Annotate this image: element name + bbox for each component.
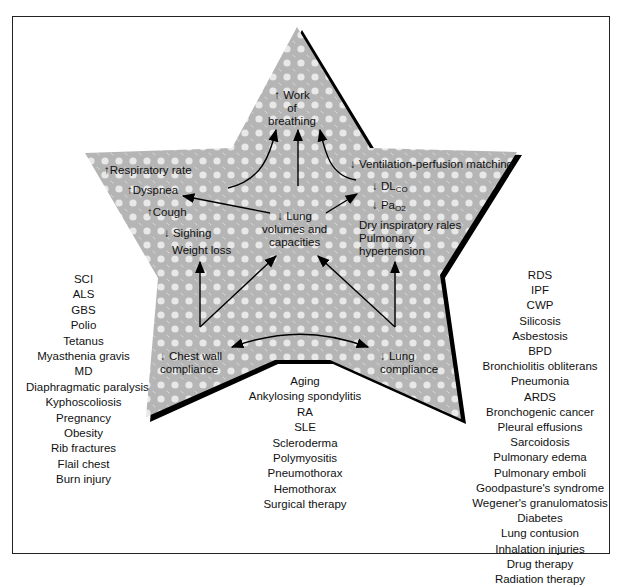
list-item: Scleroderma [230, 436, 380, 451]
list-item: Pleural effusions [470, 420, 610, 435]
effect-weight-loss: Weight loss [172, 244, 231, 257]
list-item: Pneumonia [470, 374, 610, 389]
lung-compliance-label: ↓ Lung compliance [380, 350, 438, 376]
chest-wall-compliance-label: ↓ Chest wall compliance [160, 350, 222, 376]
list-item: Radiation therapy [470, 572, 610, 587]
effect-sighing: ↓ Sighing [164, 227, 211, 240]
effect-respiratory-rate: ↑Respiratory rate [104, 164, 192, 177]
list-item: BPD [470, 344, 610, 359]
list-item: Diaphragmatic paralysis [26, 380, 141, 395]
list-item: Bronchiolitis obliterans [470, 359, 610, 374]
list-item: Bronchogenic cancer [470, 405, 610, 420]
effect-dyspnea: ↑Dyspnea [127, 184, 178, 197]
list-item: Asbestosis [470, 329, 610, 344]
chest-wall-causes-list: Aging Ankylosing spondylitis RA SLE Scle… [230, 374, 380, 513]
list-item: Inhalation injuries [470, 542, 610, 557]
lung-parenchymal-causes-list: RDS IPF CWP Silicosis Asbestosis BPD Bro… [470, 268, 610, 587]
effect-pulmonary: Pulmonary [359, 232, 414, 245]
list-item: Sarcoidosis [470, 435, 610, 450]
work-of-breathing-label: ↑ Work of breathing [268, 89, 316, 128]
list-item: SCI [26, 272, 141, 287]
list-item: Flail chest [26, 457, 141, 472]
list-item: Pulmonary edema [470, 450, 610, 465]
list-item: Polio [26, 318, 141, 333]
list-item: Goodpasture's syndrome [470, 481, 610, 496]
list-item: MD [26, 364, 141, 379]
list-item: Hemothorax [230, 482, 380, 497]
list-item: Diabetes [470, 511, 610, 526]
effect-vq-matching: ↓ Ventilation-perfusion matching [350, 158, 513, 171]
list-item: Burn injury [26, 472, 141, 487]
list-item: ALS [26, 287, 141, 302]
list-item: Polymyositis [230, 451, 380, 466]
list-item: Pregnancy [26, 411, 141, 426]
effect-hypertension: hypertension [359, 245, 425, 258]
list-item: Myasthenia gravis [26, 349, 141, 364]
list-item: Lung contusion [470, 526, 610, 541]
list-item: Silicosis [470, 314, 610, 329]
list-item: GBS [26, 303, 141, 318]
list-item: Surgical therapy [230, 497, 380, 512]
list-item: Wegener's granulomatosis [470, 496, 610, 511]
list-item: Aging [230, 374, 380, 389]
neuromuscular-chest-wall-list: SCI ALS GBS Polio Tetanus Myasthenia gra… [26, 272, 141, 488]
list-item: Kyphoscoliosis [26, 395, 141, 410]
list-item: Rib fractures [26, 441, 141, 456]
list-item: RA [230, 405, 380, 420]
list-item: RDS [470, 268, 610, 283]
list-item: IPF [470, 283, 610, 298]
list-item: Pneumothorax [230, 466, 380, 481]
list-item: Tetanus [26, 334, 141, 349]
effect-pao2: ↓ PaO2 [372, 199, 406, 215]
list-item: Pulmonary emboli [470, 466, 610, 481]
effect-dlco: ↓ DLCO [372, 180, 408, 196]
list-item: Drug therapy [470, 557, 610, 572]
list-item: Ankylosing spondylitis [230, 389, 380, 404]
effect-cough: ↑Cough [147, 206, 187, 219]
lung-volumes-label: ↓ Lung volumes and capacities [262, 210, 327, 249]
list-item: Obesity [26, 426, 141, 441]
list-item: SLE [230, 420, 380, 435]
effect-dry-rales: Dry inspiratory rales [359, 219, 461, 232]
list-item: ARDS [470, 390, 610, 405]
list-item: CWP [470, 298, 610, 313]
